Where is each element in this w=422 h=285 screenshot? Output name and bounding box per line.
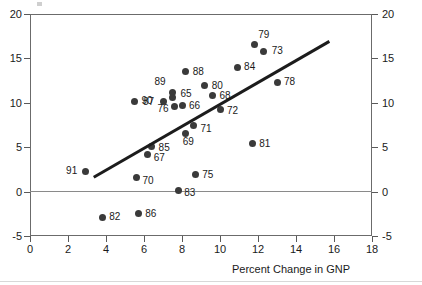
data-point-label: 67 (154, 153, 165, 163)
y-axis-tick (372, 192, 378, 193)
data-point (131, 98, 138, 105)
x-axis-tick-label: 4 (94, 244, 118, 255)
page-divider (0, 281, 422, 282)
y-axis-tick-label: 5 (0, 142, 22, 153)
x-axis-tick-label: 16 (322, 244, 346, 255)
x-axis-tick (106, 236, 107, 242)
x-axis-tick (68, 236, 69, 242)
data-point (179, 102, 186, 109)
data-point-label: 82 (109, 212, 120, 222)
data-point-label: 78 (284, 77, 295, 87)
y-axis-tick-label: 20 (0, 9, 22, 20)
data-point-label: 72 (227, 106, 238, 116)
data-point-label: 70 (142, 176, 153, 186)
x-axis-tick (182, 236, 183, 242)
y-axis-tick (24, 192, 30, 193)
data-point (133, 174, 140, 181)
data-point-label: 66 (189, 101, 200, 111)
data-point-label: 86 (145, 209, 156, 219)
y-axis-tick-label: -5 (382, 231, 406, 242)
y-axis-tick (372, 103, 378, 104)
data-point-label: 65 (181, 89, 192, 99)
data-point-label: 73 (272, 46, 283, 56)
data-point (251, 41, 258, 48)
data-point (169, 94, 176, 101)
scan-artifact (37, 2, 42, 6)
y-axis-tick (24, 103, 30, 104)
data-point-label: 79 (258, 30, 269, 40)
y-axis-tick-label: -5 (0, 231, 22, 242)
x-axis-tick (220, 236, 221, 242)
data-point (99, 214, 106, 221)
data-point-label: 89 (155, 77, 166, 87)
y-axis-tick (372, 14, 378, 15)
x-axis-tick-label: 14 (284, 244, 308, 255)
data-point (192, 171, 199, 178)
x-axis-tick-label: 10 (208, 244, 232, 255)
data-point-label: 76 (157, 104, 168, 114)
x-axis-tick-label: 0 (18, 244, 42, 255)
x-axis-tick (258, 236, 259, 242)
data-point-label: 91 (66, 166, 77, 176)
x-axis-tick (372, 236, 373, 242)
x-axis-tick-label: 6 (132, 244, 156, 255)
y-axis-tick (24, 58, 30, 59)
x-axis-tick-label: 18 (360, 244, 384, 255)
data-point (260, 48, 267, 55)
y-axis-tick-label: 10 (382, 98, 406, 109)
data-point (82, 168, 89, 175)
y-axis-tick-label: 20 (382, 9, 406, 20)
zero-reference-line (30, 191, 372, 192)
data-point (249, 140, 256, 147)
data-point (171, 103, 178, 110)
data-point (175, 187, 182, 194)
y-axis-tick (372, 58, 378, 59)
scatter-chart: 20151050-5 20151050-5 024681012141618 79… (0, 0, 422, 285)
y-axis-tick (372, 147, 378, 148)
y-axis-tick-label: 15 (0, 53, 22, 64)
data-point (274, 79, 281, 86)
x-axis-tick-label: 8 (170, 244, 194, 255)
data-point-label: 81 (259, 139, 270, 149)
data-point-label: 71 (200, 124, 211, 134)
data-point-label: 90 (142, 96, 153, 106)
y-axis-tick-label: 15 (382, 53, 406, 64)
y-axis-tick-label: 10 (0, 98, 22, 109)
x-axis-tick-label: 12 (246, 244, 270, 255)
x-axis-tick (30, 236, 31, 242)
y-axis-tick-label: 0 (0, 187, 22, 198)
data-point-label: 84 (244, 62, 255, 72)
y-axis-tick (24, 14, 30, 15)
y-axis-tick-label: 5 (382, 142, 406, 153)
y-axis-tick-label: 0 (382, 187, 406, 198)
data-point-label: 83 (184, 188, 195, 198)
x-axis-tick (144, 236, 145, 242)
y-axis-tick (24, 147, 30, 148)
x-axis-tick (334, 236, 335, 242)
x-axis-title: Percent Change in GNP (232, 263, 350, 275)
data-point-label: 75 (202, 170, 213, 180)
x-axis-tick (296, 236, 297, 242)
x-axis-tick-label: 2 (56, 244, 80, 255)
data-point-label: 69 (183, 137, 194, 147)
data-point-label: 88 (193, 67, 204, 77)
data-point (234, 64, 241, 71)
